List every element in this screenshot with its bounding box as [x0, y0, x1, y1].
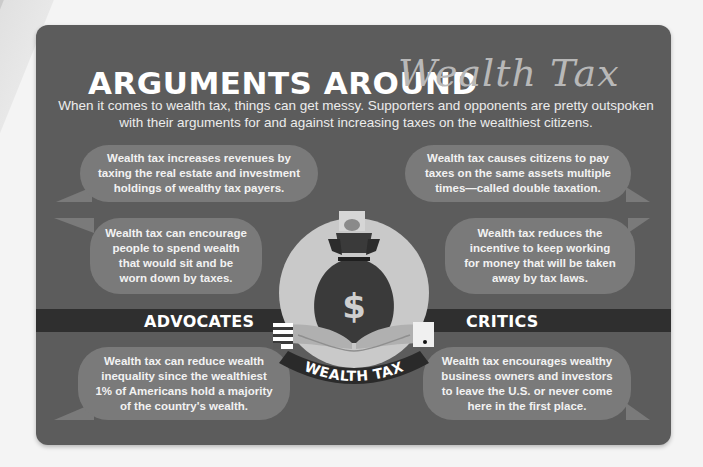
money-bag-illustration: $ WEALTH TAX — [36, 25, 671, 445]
infographic-card: ARGUMENTS AROUND Wealth Tax When it come… — [36, 25, 671, 445]
flag-cuff-icon — [273, 323, 293, 349]
dollar-sign-icon: $ — [342, 286, 366, 326]
white-cuff-icon — [413, 322, 434, 347]
banknote-icon — [339, 211, 365, 231]
